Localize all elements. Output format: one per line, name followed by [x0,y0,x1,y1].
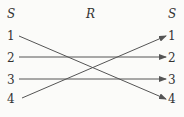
mapping-arrows [0,0,184,117]
arrow-4-to-1 [22,36,166,98]
